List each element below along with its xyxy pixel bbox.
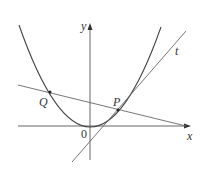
y-axis-label: y [81, 20, 86, 32]
tangent-line-label: t [175, 45, 178, 57]
y-axis-arrow-icon [88, 23, 93, 30]
point-p-label: P [113, 96, 120, 108]
origin-label: 0 [81, 128, 87, 140]
tangent-line [72, 31, 186, 162]
x-axis-label: x [187, 130, 192, 142]
diagram-canvas [0, 0, 203, 174]
point-q-label: Q [39, 96, 48, 108]
point-q [49, 91, 52, 94]
